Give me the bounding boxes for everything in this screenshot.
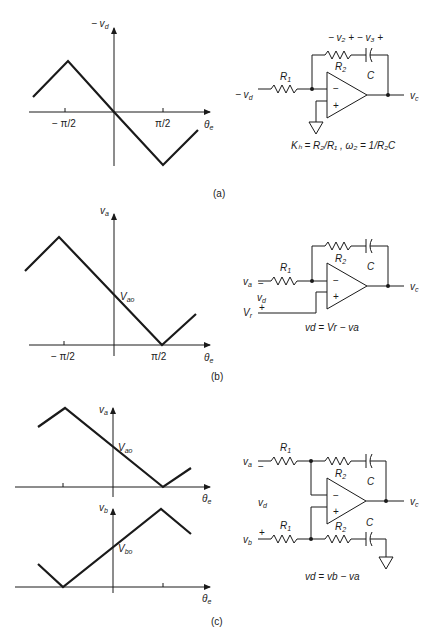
svg-text:vc: vc bbox=[410, 90, 419, 102]
svg-text:θe: θe bbox=[202, 593, 211, 605]
svg-text:vc: vc bbox=[410, 281, 419, 293]
svg-text:C: C bbox=[367, 476, 375, 487]
waveform-va bbox=[25, 237, 196, 345]
equation-a: Kₕ = R₂/R₁ , ω₂ = 1/R₂C bbox=[291, 140, 396, 151]
svg-text:R1: R1 bbox=[280, 442, 291, 454]
graph-c-bottom: vb Vbo θe bbox=[15, 502, 211, 605]
graph-b: va Vao − π/2 π/2 θe bbox=[25, 205, 213, 364]
graph-a: − vd − π/2 π/2 θe bbox=[29, 18, 213, 166]
svg-text:C: C bbox=[367, 70, 375, 81]
panel-label-c: (c) bbox=[211, 616, 223, 627]
svg-text:va: va bbox=[99, 404, 108, 416]
panel-label-b: (b) bbox=[211, 371, 223, 382]
ground-icon bbox=[309, 122, 323, 134]
svg-text:vb: vb bbox=[99, 502, 108, 514]
tick-neg-pi-2: − π/2 bbox=[52, 118, 76, 129]
resistor-r2 bbox=[325, 51, 351, 59]
svg-text:Vao: Vao bbox=[120, 291, 135, 303]
svg-text:Vao: Vao bbox=[118, 442, 133, 454]
svg-text:−: − bbox=[333, 490, 339, 501]
svg-text:vb: vb bbox=[243, 534, 252, 546]
svg-text:+: + bbox=[333, 506, 339, 517]
svg-text:va: va bbox=[243, 276, 252, 288]
panel-label-a: (a) bbox=[213, 188, 225, 199]
svg-text:R2: R2 bbox=[335, 468, 346, 480]
svg-text:−: − bbox=[333, 83, 339, 94]
graph-c-top: va Vao θe bbox=[15, 404, 211, 505]
svg-text:R2: R2 bbox=[335, 253, 346, 265]
svg-text:R2: R2 bbox=[335, 61, 346, 73]
svg-text:va: va bbox=[243, 456, 252, 468]
circuit-a: − vd − + vc R1 R2 C − v₂ + − v₃ + Kₕ = R… bbox=[235, 32, 419, 151]
opamp bbox=[327, 72, 367, 118]
equation-b: vd = Vr − va bbox=[305, 322, 359, 333]
waveform-neg-vd bbox=[33, 61, 198, 165]
svg-text:+: + bbox=[333, 100, 339, 111]
svg-text:θe: θe bbox=[204, 119, 213, 131]
svg-text:R1: R1 bbox=[280, 71, 291, 83]
svg-text:+: + bbox=[259, 527, 265, 538]
svg-text:Vbo: Vbo bbox=[118, 543, 133, 555]
svg-text:Vr: Vr bbox=[243, 307, 253, 319]
svg-text:−: − bbox=[333, 275, 339, 286]
waveform-va-c bbox=[38, 408, 191, 487]
figure: − vd − π/2 π/2 θe − vd − + vc R1 R2 C − … bbox=[0, 0, 441, 640]
svg-text:C: C bbox=[366, 517, 374, 528]
svg-text:R1: R1 bbox=[280, 520, 291, 532]
circuit-b: va − vd + Vr − + vc R1 R2 C vd = Vr − va bbox=[243, 239, 419, 333]
svg-text:π/2: π/2 bbox=[151, 351, 167, 362]
svg-text:−: − bbox=[258, 278, 264, 289]
svg-text:R1: R1 bbox=[280, 262, 291, 274]
equation-c: vd = vb − va bbox=[305, 571, 360, 582]
svg-text:− vd: − vd bbox=[91, 18, 110, 30]
ground-icon bbox=[379, 557, 393, 569]
svg-text:vd: vd bbox=[258, 497, 268, 509]
svg-text:va: va bbox=[100, 205, 109, 217]
feedback-voltages: − v₂ + − v₃ + bbox=[328, 32, 383, 43]
tick-pi-2: π/2 bbox=[155, 118, 171, 129]
svg-text:R2: R2 bbox=[335, 521, 346, 533]
svg-text:vc: vc bbox=[410, 496, 419, 508]
resistor-r1 bbox=[271, 85, 297, 93]
svg-text:−: − bbox=[258, 461, 264, 472]
svg-text:θe: θe bbox=[204, 352, 213, 364]
waveform-vb-c bbox=[38, 509, 191, 587]
svg-text:− π/2: − π/2 bbox=[51, 351, 75, 362]
svg-text:+: + bbox=[259, 302, 265, 313]
svg-text:+: + bbox=[333, 291, 339, 302]
circuit-c: va − − + vd + vb vc R1 R bbox=[243, 442, 419, 582]
svg-text:− vd: − vd bbox=[235, 89, 254, 101]
svg-text:C: C bbox=[367, 261, 375, 272]
svg-text:θe: θe bbox=[202, 493, 211, 505]
